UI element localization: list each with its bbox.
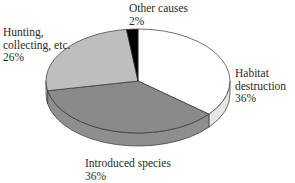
label-habitat-name-1: Habitat	[235, 67, 286, 80]
label-hunting-value: 26%	[3, 51, 70, 64]
label-other-causes: Other causes 2%	[129, 2, 188, 27]
label-introduced-value: 36%	[85, 170, 171, 183]
label-hunting-name-1: Hunting,	[3, 26, 70, 39]
label-hunting: Hunting, collecting, etc. 26%	[3, 26, 70, 64]
label-hunting-name-2: collecting, etc.	[3, 39, 70, 52]
label-habitat-name-2: destruction	[235, 80, 286, 93]
pie-top-slices	[46, 29, 230, 133]
label-other-causes-name: Other causes	[129, 2, 188, 15]
label-introduced-species: Introduced species 36%	[85, 157, 171, 182]
label-other-causes-value: 2%	[129, 15, 188, 28]
label-introduced-name: Introduced species	[85, 157, 171, 170]
label-habitat-destruction: Habitat destruction 36%	[235, 67, 286, 105]
label-habitat-value: 36%	[235, 92, 286, 105]
